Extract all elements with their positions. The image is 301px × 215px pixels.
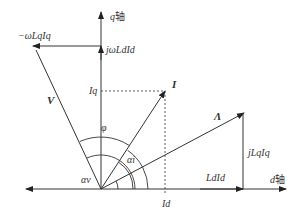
ld-id-label: LdId: [205, 172, 226, 183]
voltage-vector: [36, 50, 101, 189]
phasor-diagram: q轴 d轴 −ωLqIq jωLdId V I Λ Iq Id LdId jLq…: [0, 0, 301, 215]
flux-angle-arc: [116, 181, 118, 189]
neg-omega-lq-iq-label: −ωLqIq: [18, 30, 51, 41]
j-omega-ld-id-label: jωLdId: [104, 44, 136, 55]
voltage-label: V: [47, 94, 56, 106]
id-label: Id: [161, 198, 171, 209]
alpha-i-label: αi: [127, 154, 135, 165]
flux-label: Λ: [213, 110, 221, 122]
alpha-v-label: αv: [81, 174, 91, 185]
current-label: I: [171, 78, 177, 90]
current-vector: [101, 91, 165, 189]
q-axis-label: q轴: [110, 10, 125, 22]
d-axis-label: d轴: [270, 173, 285, 185]
phi-label: φ: [101, 122, 107, 133]
iq-label: Iq: [88, 85, 97, 96]
j-lq-iq-label: jLqIq: [246, 147, 270, 158]
phi-arc: [80, 137, 129, 145]
